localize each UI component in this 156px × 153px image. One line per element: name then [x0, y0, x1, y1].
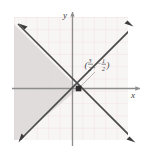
label-close-paren: ): [106, 60, 110, 70]
coordinate-plane-figure: x y ( 3 2 , − 1 2 ): [0, 0, 156, 153]
label-y-sign: −: [97, 60, 101, 66]
label-comma: ,: [94, 62, 96, 70]
graph-canvas: x y ( 3 2 , − 1 2 ): [0, 0, 156, 153]
label-y-denominator: 2: [102, 66, 105, 72]
label-x-numerator: 3: [88, 58, 92, 64]
intersection-point-marker: [76, 86, 82, 92]
label-x-denominator: 2: [89, 66, 92, 72]
x-axis-label: x: [130, 90, 135, 100]
x-axis-arrow-icon: [135, 86, 140, 90]
y-axis-arrow-icon: [70, 12, 74, 17]
y-axis-label: y: [62, 10, 67, 20]
label-y-numerator: 1: [102, 58, 105, 64]
